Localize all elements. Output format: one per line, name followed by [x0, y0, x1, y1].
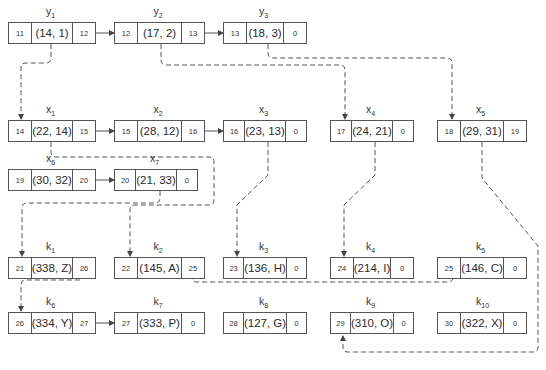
node-next-pointer: 27: [73, 313, 95, 333]
link-x1-k2: [51, 142, 214, 256]
node-next-pointer: 0: [287, 313, 306, 333]
node-value: (18, 3): [246, 23, 284, 43]
node-k10: 30(322, X)0: [437, 312, 527, 334]
node-label-x4: x4: [366, 103, 375, 117]
node-label-k7: k7: [154, 295, 163, 309]
node-address: 23: [224, 258, 243, 278]
node-y1: 11(14, 1)12: [8, 22, 96, 44]
node-next-pointer: 26: [73, 258, 95, 278]
node-k6: 26(334, Y)27: [8, 312, 96, 334]
node-label-k6: k6: [46, 295, 55, 309]
node-label-y1: y1: [46, 5, 55, 19]
node-y3: 13(18, 3)0: [223, 22, 307, 44]
node-address: 21: [9, 258, 31, 278]
node-next-pointer: 15: [73, 121, 95, 141]
node-next-pointer: 19: [504, 121, 526, 141]
node-x1: 14(22, 14)15: [8, 120, 96, 142]
node-value: (30, 32): [31, 170, 73, 190]
node-address: 14: [9, 121, 31, 141]
node-next-pointer: 0: [182, 313, 204, 333]
node-label-x1: x1: [46, 103, 55, 117]
node-value: (214, I): [353, 258, 391, 278]
node-label-k9: k9: [366, 295, 375, 309]
node-label-y3: y3: [259, 5, 268, 19]
node-value: (338, Z): [31, 258, 73, 278]
node-value: (127, G): [243, 313, 287, 333]
node-x2: 15(28, 12)16: [114, 120, 205, 142]
node-k8: 28(127, G)0: [223, 312, 307, 334]
node-label-x5: x5: [476, 103, 485, 117]
node-value: (23, 13): [244, 121, 286, 141]
node-x4: 17(24, 21)0: [330, 120, 414, 142]
node-address: 17: [331, 121, 351, 141]
node-next-pointer: 0: [391, 258, 413, 278]
node-next-pointer: 0: [286, 121, 306, 141]
node-address: 28: [224, 313, 243, 333]
node-value: (322, X): [460, 313, 504, 333]
node-address: 22: [115, 258, 137, 278]
node-address: 24: [331, 258, 353, 278]
node-label-x7: x7: [150, 152, 159, 166]
node-x7: 20(21, 33)0: [114, 169, 198, 191]
node-k7: 27(333, P)0: [114, 312, 205, 334]
node-next-pointer: 0: [284, 23, 306, 43]
node-k9: 29(310, O)0: [330, 312, 414, 334]
node-label-x6: x6: [46, 152, 55, 166]
node-k4: 24(214, I)0: [330, 257, 414, 279]
node-label-k2: k2: [154, 240, 163, 254]
node-address: 27: [115, 313, 137, 333]
node-next-pointer: 12: [73, 23, 95, 43]
node-value: (136, H): [243, 258, 287, 278]
node-value: (24, 21): [351, 121, 393, 141]
node-next-pointer: 13: [182, 23, 204, 43]
link-x3-k3: [237, 142, 268, 256]
node-next-pointer: 25: [182, 258, 204, 278]
node-label-k3: k3: [259, 240, 268, 254]
node-label-x3: x3: [259, 103, 268, 117]
node-next-pointer: 0: [393, 121, 413, 141]
node-value: (21, 33): [135, 170, 177, 190]
node-next-pointer: 16: [182, 121, 204, 141]
link-y3-x5: [268, 44, 452, 119]
link-y2-x4: [161, 44, 345, 119]
node-address: 30: [438, 313, 460, 333]
node-address: 19: [9, 170, 31, 190]
node-value: (29, 31): [460, 121, 504, 141]
node-address: 25: [438, 258, 460, 278]
node-k1: 21(338, Z)26: [8, 257, 96, 279]
node-label-k5: k5: [476, 240, 485, 254]
node-label-k1: k1: [46, 240, 55, 254]
node-next-pointer: 0: [504, 313, 526, 333]
node-address: 18: [438, 121, 460, 141]
node-value: (28, 12): [137, 121, 182, 141]
node-next-pointer: 20: [73, 170, 95, 190]
node-label-y2: y2: [154, 5, 163, 19]
node-address: 15: [115, 121, 137, 141]
node-k5: 25(146, C)0: [437, 257, 527, 279]
node-label-k10: k10: [476, 295, 489, 309]
link-x7-k1: [22, 191, 160, 256]
node-label-k4: k4: [366, 240, 375, 254]
node-value: (146, C): [460, 258, 504, 278]
node-next-pointer: 0: [287, 258, 306, 278]
node-value: (333, P): [137, 313, 182, 333]
node-address: 26: [9, 313, 31, 333]
node-value: (145, A): [137, 258, 182, 278]
node-address: 20: [115, 170, 135, 190]
node-k3: 23(136, H)0: [223, 257, 307, 279]
node-value: (310, O): [350, 313, 394, 333]
node-address: 16: [224, 121, 244, 141]
node-value: (22, 14): [31, 121, 73, 141]
node-next-pointer: 0: [177, 170, 197, 190]
node-value: (334, Y): [31, 313, 74, 333]
node-label-k8: k8: [259, 295, 268, 309]
node-address: 12: [115, 23, 137, 43]
node-next-pointer: 0: [504, 258, 526, 278]
node-x5: 18(29, 31)19: [437, 120, 527, 142]
node-value: (17, 2): [137, 23, 182, 43]
node-k2: 22(145, A)25: [114, 257, 205, 279]
node-next-pointer: 0: [394, 313, 413, 333]
node-x6: 19(30, 32)20: [8, 169, 96, 191]
node-x3: 16(23, 13)0: [223, 120, 307, 142]
node-label-x2: x2: [154, 103, 163, 117]
